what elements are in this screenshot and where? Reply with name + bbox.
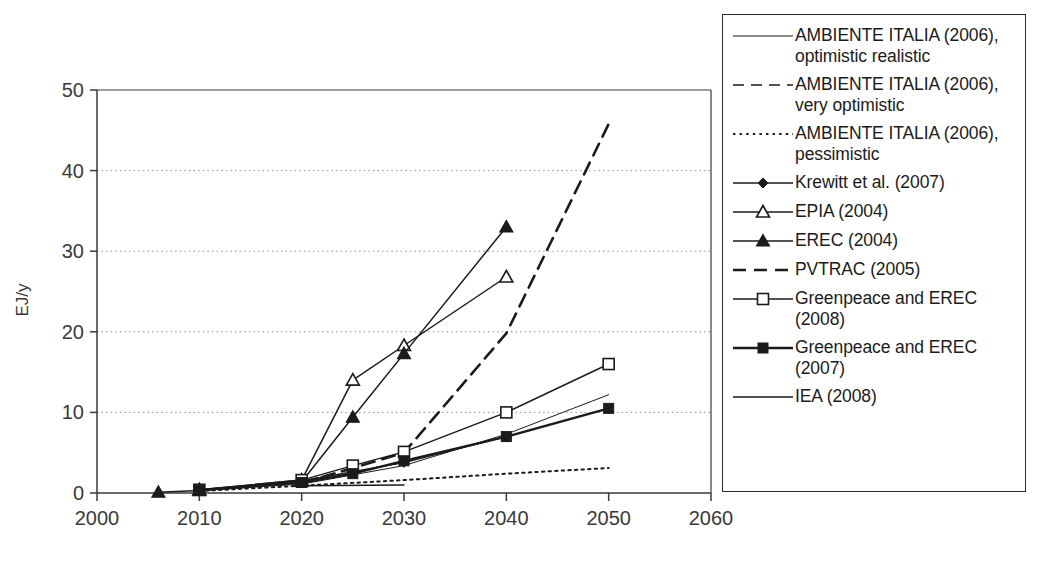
legend-swatch [731, 26, 795, 46]
legend-item-label: Krewitt et al. (2007) [795, 172, 945, 193]
legend-item[interactable]: IEA (2008) [723, 386, 1025, 407]
legend-item[interactable]: PVTRAC (2005) [723, 259, 1025, 280]
marker-open-triangle [346, 374, 359, 386]
legend-item-label: Greenpeace and EREC (2008) [795, 288, 1025, 329]
legend-swatch [731, 202, 795, 222]
x-tick-label: 2060 [689, 507, 734, 529]
legend-item-label: PVTRAC (2005) [795, 259, 920, 280]
legend-item[interactable]: Greenpeace and EREC (2007) [723, 337, 1025, 378]
x-tick-label: 2040 [484, 507, 529, 529]
marker-filled-square [604, 403, 614, 413]
marker-open-square [758, 294, 769, 305]
x-tick-label: 2010 [177, 507, 222, 529]
x-tick-label: 2050 [586, 507, 631, 529]
legend-item-label: IEA (2008) [795, 386, 877, 407]
marker-filled-square [501, 432, 511, 442]
legend-item-label: EPIA (2004) [795, 201, 888, 222]
legend-item-label: EREC (2004) [795, 230, 898, 251]
legend-item[interactable]: EPIA (2004) [723, 201, 1025, 222]
legend-swatch [731, 173, 795, 193]
y-tick-label: 10 [62, 401, 84, 423]
marker-filled-square [399, 456, 409, 466]
series-line [199, 395, 608, 491]
series [302, 124, 609, 483]
marker-filled-triangle [500, 221, 513, 233]
y-axis-title: EJ/y [13, 283, 32, 317]
series-line [158, 227, 506, 492]
marker-open-square [501, 407, 512, 418]
legend-item[interactable]: EREC (2004) [723, 230, 1025, 251]
marker-open-square [603, 359, 614, 370]
marker-filled-square [348, 469, 358, 479]
y-tick-label: 0 [73, 482, 84, 504]
y-tick-label: 50 [62, 79, 84, 101]
legend-item-label: AMBIENTE ITALIA (2006), very optimistic [795, 74, 1025, 115]
series-line [302, 124, 609, 483]
series-line [199, 364, 608, 490]
legend-swatch [731, 231, 795, 251]
legend-list: AMBIENTE ITALIA (2006), optimistic reali… [723, 15, 1025, 491]
y-tick-label: 30 [62, 240, 84, 262]
legend-item[interactable]: AMBIENTE ITALIA (2006), very optimistic [723, 74, 1025, 115]
y-tick-label: 40 [62, 160, 84, 182]
legend-swatch [731, 338, 795, 358]
x-tick-label: 2000 [75, 507, 120, 529]
legend-swatch [731, 124, 795, 144]
legend-item[interactable]: AMBIENTE ITALIA (2006), optimistic reali… [723, 25, 1025, 66]
series [152, 221, 513, 498]
legend-item[interactable]: AMBIENTE ITALIA (2006), pessimistic [723, 123, 1025, 164]
legend-item[interactable]: Krewitt et al. (2007) [723, 172, 1025, 193]
legend-swatch [731, 75, 795, 95]
marker-open-triangle [500, 270, 513, 282]
series [199, 468, 608, 491]
legend-item-label: AMBIENTE ITALIA (2006), pessimistic [795, 123, 1025, 164]
legend-item-label: AMBIENTE ITALIA (2006), optimistic reali… [795, 25, 1025, 66]
chart-figure: 010203040502000201020202030204020502060 … [0, 0, 1041, 561]
legend-swatch [731, 260, 795, 280]
y-tick-label: 20 [62, 321, 84, 343]
gridlines [97, 171, 711, 413]
series-line [302, 485, 404, 486]
legend-item[interactable]: Greenpeace and EREC (2008) [723, 288, 1025, 329]
marker-filled-square [194, 485, 204, 495]
series [194, 359, 614, 496]
axes [90, 90, 711, 501]
x-tick-label: 2020 [279, 507, 324, 529]
legend-swatch [731, 387, 795, 407]
legend: AMBIENTE ITALIA (2006), optimistic reali… [722, 14, 1026, 492]
series [199, 395, 608, 491]
series [302, 485, 404, 486]
legend-swatch [731, 289, 795, 309]
marker-filled-square [758, 343, 768, 353]
marker-filled-diamond [758, 178, 768, 188]
legend-item-label: Greenpeace and EREC (2007) [795, 337, 1025, 378]
series-line [199, 468, 608, 491]
series-layer [152, 124, 614, 497]
x-tick-label: 2030 [382, 507, 427, 529]
